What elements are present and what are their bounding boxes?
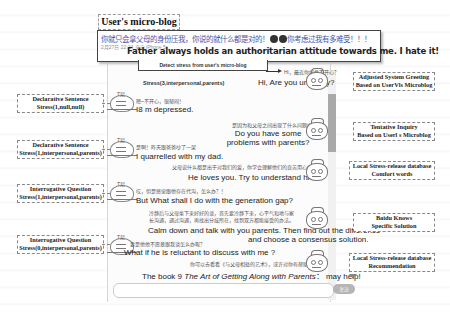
- user-message-en: I8 m depressed.: [136, 105, 193, 114]
- connector: [102, 244, 110, 246]
- robot-avatar-icon: [306, 211, 328, 229]
- user-message-en: What if he is reluctant to discuss with …: [124, 248, 275, 257]
- microblog-text-en: Father always holds an authoritarian att…: [127, 46, 439, 56]
- connector: [102, 149, 110, 151]
- left-note-line2: Stress(1,null,null): [18, 103, 103, 111]
- left-note-line1: Declarative Sentence: [18, 95, 103, 103]
- right-note-line1: Tentative Inquiry: [354, 123, 434, 131]
- left-note-line1: Interrogative Question: [18, 185, 103, 193]
- right-note-line2: Based on Userl s Microblog: [354, 131, 434, 139]
- right-note-line1: Local Stress-release database: [350, 162, 434, 170]
- system-message-cn: 是因为和父母之间出现了什么问题吗？: [232, 121, 317, 128]
- user-message-cn: 嗯~不开心，很郁闷！: [136, 97, 184, 104]
- robot-avatar-icon: [306, 122, 328, 140]
- message-input[interactable]: [113, 283, 334, 298]
- microblog-post: 你就只会拿父母的身份压我，你说的就什么都是对的！你考虑过我有多难受！！！ 2月2…: [97, 30, 381, 62]
- robot-avatar-icon: [306, 254, 328, 272]
- right-note-line1: Baidu Knows: [354, 214, 434, 222]
- right-note: Tentative Inquiry Based on Userl s Micro…: [353, 122, 435, 141]
- scrollbar-thumb[interactable]: [328, 94, 336, 152]
- left-note: Declarative Sentence Stress(1,null,null): [17, 94, 104, 113]
- right-note: Local Stress-release database Comfort wo…: [349, 161, 435, 180]
- user-avatar-icon: T尼: [110, 95, 134, 112]
- microblog-text-cn-tail: 你考虑过我有多难受！！！: [287, 35, 371, 44]
- system-message-en-line2: and choose a consensus solution.: [248, 235, 369, 244]
- left-note-line1: Declarative Sentence: [18, 141, 103, 149]
- stress-label: Stress(3,interpersonal,parents): [143, 80, 224, 86]
- right-note-line1: Local Stress-release database: [350, 254, 434, 262]
- left-note: Interrogative Question Stress(0,interper…: [17, 235, 104, 254]
- system-message-cn: 你可以去看看《与父母相处的艺术》，或许对你有帮助。: [190, 260, 313, 267]
- system-message-en: He loves you. Try to understand him.: [188, 173, 318, 182]
- system-message-en-line1: Calm down and talk with you parents. The…: [148, 226, 380, 235]
- user-message-cn: 哎，但是感觉跟他存在代沟，怎么办？！: [136, 187, 226, 194]
- left-note-line2: Stress(1,interpersonal,parents): [18, 149, 103, 157]
- right-note: Adjusted System Greeting Based on UserVl…: [353, 72, 435, 91]
- chevron-down-icon[interactable]: [349, 274, 357, 279]
- robot-avatar-icon: [306, 72, 328, 90]
- book-prefix: The book 9: [142, 272, 184, 281]
- user-message-cn: 要是他他不愿意跟我谈怎么办呢？: [130, 240, 205, 247]
- right-note-line2: Recommendation: [350, 262, 434, 270]
- right-note-line1: Adjusted System Greeting: [354, 73, 434, 81]
- detect-stress-label: Detect stress from user's micro-blog: [138, 60, 268, 71]
- user-avatar-icon: T尼: [110, 141, 134, 158]
- left-note: Interrogative Question Stress(1,interper…: [17, 184, 104, 203]
- robot-avatar-icon: [306, 163, 328, 181]
- right-note: Local Stress-release database Recommenda…: [349, 253, 435, 272]
- system-message-en: The book 9 The Art of Getting Along with…: [142, 270, 361, 281]
- left-note-line2: Stress(0,interpersonal,parents): [18, 244, 103, 252]
- connector: [102, 103, 110, 105]
- send-button[interactable]: 发送: [333, 284, 355, 294]
- user-message-cn: 是啊！昨天跟爸爸吵了一架: [136, 143, 196, 150]
- right-note-line2: Comfort words: [350, 170, 434, 178]
- left-note-line2: Stress(1,interpersonal,parents): [18, 193, 103, 201]
- emoji-icon: [279, 35, 287, 43]
- left-note: Declarative Sentence Stress(1,interperso…: [17, 140, 104, 159]
- book-title: The Art of Getting Along with Parents: [184, 272, 315, 281]
- arrow-head-icon: [278, 69, 282, 73]
- system-message-cn: 父母说什么都是出于对我们的爱，你学会理解他们的良苦用心吧。: [172, 163, 317, 170]
- emoji-icon: [270, 35, 278, 43]
- right-note-line2: Specific Solution: [354, 222, 434, 230]
- user-avatar-icon: T尼: [110, 185, 134, 202]
- user-message-en: But What shall I do with the generation …: [136, 196, 293, 205]
- system-message-cn: 冷静后与父母坐下来好好的谈，首先要冷静下来，心平气和地与家长沟通，通过沟通，再找…: [148, 210, 294, 224]
- system-message-en: Do you have some problems with parents?: [224, 129, 312, 147]
- user-message-en: I quarrelled with my dad.: [136, 152, 223, 161]
- right-note: Baidu Knows Specific Solution: [353, 213, 435, 232]
- microblog-title: User's micro-blog: [98, 14, 180, 30]
- right-note-line2: Based on UserVls Microblog: [354, 81, 434, 89]
- connector: [102, 193, 110, 195]
- left-note-line1: Interrogative Question: [18, 236, 103, 244]
